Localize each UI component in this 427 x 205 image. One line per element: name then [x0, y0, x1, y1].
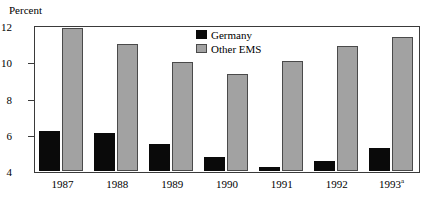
bar-germany-1989 [149, 144, 170, 171]
bar-other-ems-1991 [282, 61, 303, 171]
bar-other-ems-1990 [227, 74, 248, 171]
x-tick-label-1993: 1993a [379, 178, 404, 191]
gray-square-swatch [196, 44, 207, 53]
bar-group [363, 26, 418, 171]
bar-other-ems-1988 [117, 44, 138, 171]
x-tick-label-1989: 1989 [161, 178, 183, 191]
bar-group [89, 26, 144, 171]
bar-germany-1988 [94, 133, 115, 171]
bar-group [144, 26, 199, 171]
black-square-swatch [196, 30, 207, 39]
x-tick-label-1988: 1988 [106, 178, 128, 191]
y-tick-label-4: 4 [7, 167, 13, 178]
x-axis: 1987198819891990199119921993a [35, 178, 419, 198]
y-tick-label-8: 8 [7, 94, 13, 105]
bar-group [308, 26, 363, 171]
x-tick-label-1990: 1990 [216, 178, 238, 191]
y-tick-label-12: 12 [1, 22, 12, 33]
y-tick-label-10: 10 [1, 58, 12, 69]
legend-entry-other-ems: Other EMS [196, 42, 304, 55]
y-tick-label-6: 6 [7, 130, 13, 141]
bar-germany-1993 [369, 148, 390, 171]
x-tick-label-1987: 1987 [51, 178, 73, 191]
bar-other-ems-1989 [172, 62, 193, 171]
bar-other-ems-1993 [392, 37, 413, 171]
y-axis: 4681012 [0, 0, 34, 205]
bar-other-ems-1987 [62, 28, 83, 171]
bar-chart-figure: Percent 4681012 198719881989199019911992… [0, 0, 427, 205]
legend-label: Germany [211, 29, 252, 41]
bar-other-ems-1992 [337, 46, 358, 171]
legend-label: Other EMS [211, 43, 261, 55]
bar-germany-1992 [314, 161, 335, 171]
bar-group [34, 26, 89, 171]
x-tick-label-1991: 1991 [271, 178, 293, 191]
bar-germany-1987 [39, 131, 60, 171]
legend-entry-germany: Germany [196, 28, 304, 41]
chart-legend: GermanyOther EMS [196, 28, 304, 56]
x-tick-footnote-marker: a [401, 177, 404, 185]
bar-germany-1990 [204, 157, 225, 171]
x-tick-label-1992: 1992 [326, 178, 348, 191]
bar-germany-1991 [259, 167, 280, 171]
